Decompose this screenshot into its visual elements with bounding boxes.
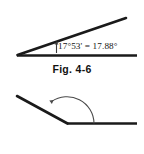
angle-diagram-obtuse bbox=[0, 80, 144, 154]
angle-value-dms-4-6: 17°53' bbox=[58, 41, 82, 51]
figure-sheet: 17°53'=17.88° Fig. 4-6 154.36°=154°22' F… bbox=[0, 0, 144, 154]
figure-4-7: 154.36°=154°22' Fig. 4-7 bbox=[0, 80, 144, 154]
figure-4-6: 17°53'=17.88° Fig. 4-6 bbox=[0, 0, 144, 80]
angle-value-decimal-4-6: 17.88° bbox=[93, 41, 118, 51]
figure-caption-4-6: Fig. 4-6 bbox=[0, 63, 144, 75]
equals-sign-4-6: = bbox=[82, 41, 92, 51]
angle-label-4-6: 17°53'=17.88° bbox=[58, 41, 118, 51]
inclined-ray-4-7 bbox=[17, 96, 68, 124]
angle-arc-arrowhead-4-7 bbox=[49, 100, 53, 104]
